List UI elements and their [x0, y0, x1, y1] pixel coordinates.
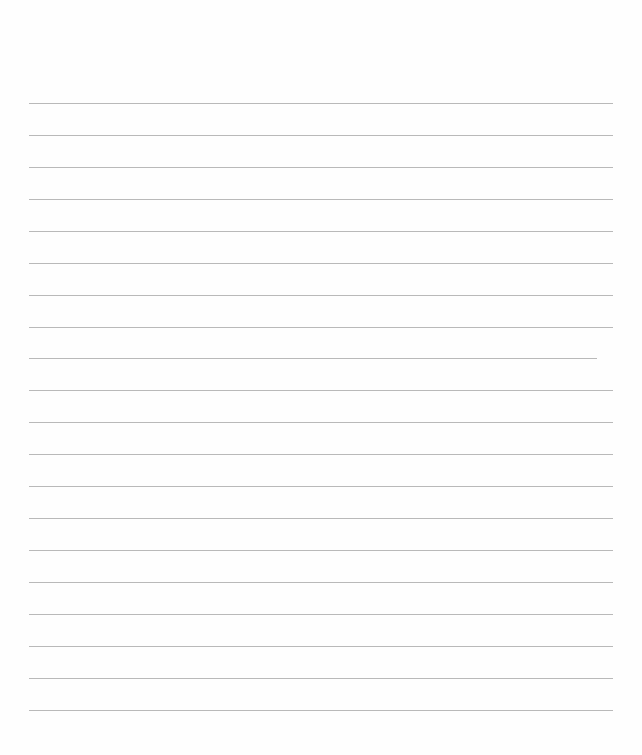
ruled-line [29, 486, 613, 487]
ruled-line [29, 390, 613, 391]
ruled-line [29, 454, 613, 455]
ruled-line [29, 199, 613, 200]
ruled-line [29, 263, 613, 264]
ruled-line [29, 103, 613, 104]
ruled-line [29, 295, 613, 296]
ruled-line [29, 710, 613, 711]
ruled-line [29, 518, 613, 519]
ruled-line [29, 678, 613, 679]
ruled-page [0, 0, 642, 755]
ruled-line [29, 135, 613, 136]
ruled-line [29, 646, 613, 647]
ruled-line [29, 422, 613, 423]
ruled-line [29, 231, 613, 232]
ruled-line [29, 167, 613, 168]
ruled-line [29, 550, 613, 551]
ruled-line [29, 358, 597, 359]
ruled-line [29, 582, 613, 583]
ruled-line [29, 327, 613, 328]
ruled-line [29, 614, 613, 615]
